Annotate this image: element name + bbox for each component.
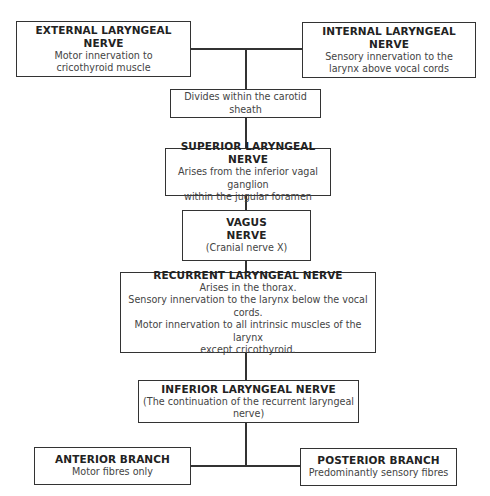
posterior-title: POSTERIOR BRANCH [317, 454, 439, 467]
recurrent-laryngeal-nerve-box: RECURRENT LARYNGEAL NERVE Arises in the … [120, 272, 376, 353]
recurrent-desc-4: except cricothyroid. [200, 344, 295, 357]
anterior-title: ANTERIOR BRANCH [55, 453, 170, 466]
external-desc-2: cricothyroid muscle [56, 62, 150, 75]
internal-desc-1: Sensory innervation to the [325, 51, 453, 64]
recurrent-desc-2: Sensory innervation to the larynx below … [121, 294, 375, 319]
posterior-branch-box: POSTERIOR BRANCH Predominantly sensory f… [300, 448, 457, 486]
recurrent-desc-1: Arises in the thorax. [200, 282, 297, 295]
superior-desc-1: Arises from the inferior vagal ganglion [166, 166, 330, 191]
superior-laryngeal-nerve-box: SUPERIOR LARYNGEAL NERVE Arises from the… [165, 148, 331, 196]
connector-to-divides [245, 48, 247, 89]
inferior-desc: (The continuation of the recurrent laryn… [139, 396, 358, 421]
anterior-desc: Motor fibres only [72, 466, 153, 479]
connector-inferior-branches [245, 422, 247, 465]
divides-text: Divides within the carotid sheath [171, 91, 320, 116]
divides-carotid-sheath-box: Divides within the carotid sheath [170, 89, 321, 118]
posterior-desc: Predominantly sensory fibres [309, 467, 449, 480]
vagus-title-2: NERVE [227, 229, 267, 242]
external-title: EXTERNAL LARYNGEAL NERVE [17, 24, 190, 50]
superior-title: SUPERIOR LARYNGEAL NERVE [166, 140, 330, 166]
recurrent-desc-3: Motor innervation to all intrinsic muscl… [121, 319, 375, 344]
inferior-laryngeal-nerve-box: INFERIOR LARYNGEAL NERVE (The continuati… [138, 380, 359, 423]
vagus-desc: (Cranial nerve X) [206, 242, 287, 255]
internal-laryngeal-nerve-box: INTERNAL LARYNGEAL NERVE Sensory innerva… [302, 22, 476, 78]
superior-desc-2: within the jugular foramen [184, 191, 312, 204]
recurrent-title: RECURRENT LARYNGEAL NERVE [153, 269, 342, 282]
internal-title: INTERNAL LARYNGEAL NERVE [303, 25, 475, 51]
internal-desc-2: larynx above vocal cords [329, 63, 449, 76]
anterior-branch-box: ANTERIOR BRANCH Motor fibres only [34, 447, 191, 485]
inferior-title: INFERIOR LARYNGEAL NERVE [161, 383, 335, 396]
vagus-nerve-box: VAGUS NERVE (Cranial nerve X) [182, 210, 311, 261]
external-desc-1: Motor innervation to [54, 50, 152, 63]
external-laryngeal-nerve-box: EXTERNAL LARYNGEAL NERVE Motor innervati… [16, 21, 191, 77]
vagus-title-1: VAGUS [226, 216, 267, 229]
connector-anterior-posterior [190, 465, 300, 467]
